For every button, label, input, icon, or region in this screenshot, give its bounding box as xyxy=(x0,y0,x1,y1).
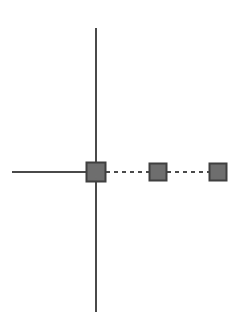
canvas-background xyxy=(0,0,231,320)
node-square-2[interactable] xyxy=(150,164,167,181)
node-square-3[interactable] xyxy=(210,164,227,181)
diagram-canvas xyxy=(0,0,231,320)
node-square-1[interactable] xyxy=(87,163,106,182)
diagram-svg xyxy=(0,0,231,320)
